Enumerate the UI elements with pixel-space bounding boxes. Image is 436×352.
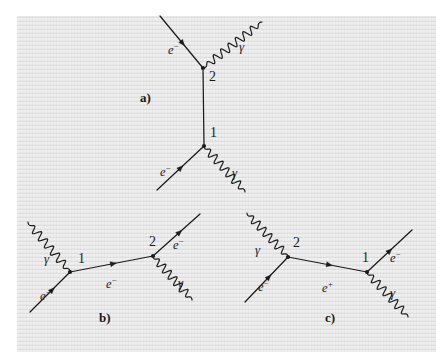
a-photon-upper (203, 22, 262, 68)
panel-a-vertex-1-label: 1 (210, 126, 217, 140)
b-internal-electron-arrow-icon (110, 262, 116, 267)
panel-c-photon-label-in: γ (255, 243, 260, 256)
b-photon-out (153, 256, 192, 300)
panel-b-internal-electron-label: e− (106, 276, 117, 291)
panel-c-vertex-2-dot (286, 255, 290, 259)
a-electron-in-upper (160, 16, 203, 68)
panel-c-vertex-2-label: 2 (293, 236, 300, 250)
panel-c-photon-label-out: γ (390, 286, 395, 299)
c-photon-out (367, 272, 408, 317)
panel-a-electron-label-upper: e− (168, 42, 179, 57)
panel-b-photon-label-in: γ (44, 252, 49, 265)
panel-b-electron-label-in: e− (40, 288, 51, 303)
panel-c-electron-label-in: e− (258, 279, 269, 294)
panel-a-photon-label-lower: γ (232, 166, 237, 179)
panel-b-caption: b) (99, 311, 111, 324)
panel-a-vertex-2-label: 2 (209, 70, 216, 84)
panel-c (245, 213, 412, 317)
panel-a-electron-label-lower: e− (160, 164, 171, 179)
panel-a-vertex-1-dot (202, 144, 206, 148)
panel-a-photon-label-upper: γ (239, 40, 244, 53)
panel-c-vertex-1-label: 1 (362, 251, 369, 265)
panel-b-vertex-1-dot (68, 270, 72, 274)
panel-b-vertex-2-dot (151, 254, 155, 258)
c-internal-positron-arrow-icon (326, 262, 332, 267)
a-photon-lower (204, 146, 245, 192)
panel-b-vertex-1-label: 1 (78, 252, 85, 266)
panel-b-vertex-2-label: 2 (149, 235, 156, 249)
figure-root: 21e−γe−γa)12γe−e−e−γb)21γe−e+e−γc) (0, 0, 436, 352)
panel-b (28, 214, 200, 312)
panel-c-electron-label-out: e− (390, 250, 401, 265)
panel-b-photon-label-out: γ (178, 276, 183, 289)
panel-c-internal-positron-label: e+ (322, 280, 333, 295)
panel-a-vertex-2-dot (201, 66, 205, 70)
c-internal-positron (288, 257, 367, 272)
a-internal-electron (203, 68, 204, 146)
diagram-vector-layer (0, 0, 436, 352)
panel-c-caption: c) (325, 311, 335, 324)
panel-c-vertex-1-dot (365, 270, 369, 274)
panel-b-electron-label-out: e− (173, 237, 184, 252)
c-photon-in (247, 213, 288, 257)
panel-a-caption: a) (140, 91, 151, 104)
